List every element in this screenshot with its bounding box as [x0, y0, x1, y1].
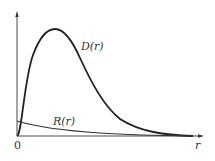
y-axis-arrow-icon — [15, 11, 18, 17]
origin-label: 0 — [14, 139, 21, 152]
label-d: D(r) — [81, 40, 104, 53]
curve-d — [17, 29, 193, 136]
x-axis-arrow-icon — [198, 134, 204, 137]
x-axis-label: r — [195, 139, 200, 152]
chart-canvas — [0, 0, 215, 161]
label-r: R(r) — [53, 115, 75, 128]
